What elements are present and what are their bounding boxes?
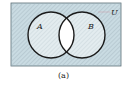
universe-label: U bbox=[111, 8, 118, 17]
set-b-label: B bbox=[87, 22, 94, 31]
set-a-label: A bbox=[36, 22, 43, 31]
figure-caption: (a) bbox=[0, 71, 127, 80]
